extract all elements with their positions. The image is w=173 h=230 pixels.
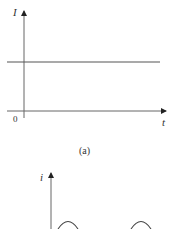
graph-a-y-label: I: [12, 6, 18, 18]
graph-a-caption: (a): [79, 145, 90, 157]
figure-canvas: I 0 t (a) i: [0, 0, 173, 229]
graph-a-origin-label: 0: [13, 114, 18, 124]
graph-a-x-label: t: [162, 116, 166, 128]
graph-b-y-label: i: [40, 171, 43, 183]
graph-b-arc-2: [131, 222, 151, 230]
graph-b-arc-1: [58, 222, 78, 230]
graph-b: i: [40, 171, 151, 229]
graph-a: I 0 t (a): [7, 6, 166, 157]
